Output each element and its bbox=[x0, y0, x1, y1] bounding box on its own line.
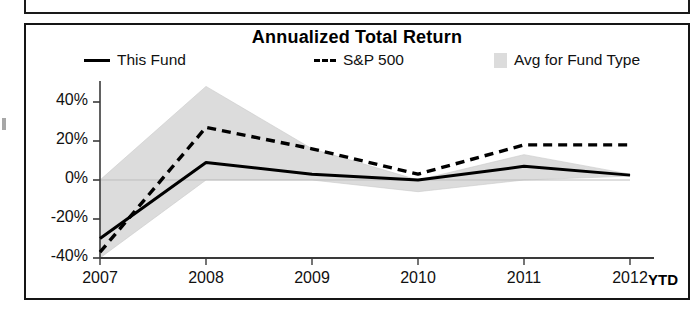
x-tick-label-2011: 2011 bbox=[489, 269, 559, 287]
y-tick-label-neg20: -20% bbox=[22, 208, 88, 226]
ytd-label: YTD bbox=[648, 271, 678, 288]
annualized-total-return-panel: Annualized Total Return This Fund S&P 50… bbox=[24, 23, 690, 300]
page-panel-fragment-above bbox=[24, 0, 690, 14]
y-tick-label-0: 0% bbox=[22, 169, 88, 187]
y-tick-label-40: 40% bbox=[22, 91, 88, 109]
y-tick-label-20: 20% bbox=[22, 130, 88, 148]
x-tick-label-2007: 2007 bbox=[65, 269, 135, 287]
page-edge-artifact bbox=[2, 118, 6, 130]
x-tick-label-2008: 2008 bbox=[171, 269, 241, 287]
y-tick-label-neg40: -40% bbox=[22, 247, 88, 265]
chart-svg bbox=[26, 25, 692, 302]
x-tick-label-2010: 2010 bbox=[383, 269, 453, 287]
avg-fund-type-band bbox=[100, 86, 630, 258]
x-tick-label-2009: 2009 bbox=[277, 269, 347, 287]
plot-area: 40% 20% 0% -20% -40% 2007 2008 2009 2010… bbox=[26, 25, 688, 298]
